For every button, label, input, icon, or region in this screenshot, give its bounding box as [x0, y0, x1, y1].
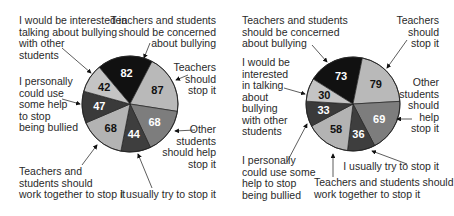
label-together: Teachers and students should work togeth…	[19, 166, 125, 201]
slice-value-label: 30	[318, 89, 330, 101]
label-together: Teachers and students should work togeth…	[314, 177, 454, 200]
label-usually: I usually try to stop it	[343, 161, 439, 173]
label-help: I personally could use some help to stop…	[19, 76, 78, 134]
label-usually: I usually try to stop it	[120, 189, 216, 201]
slice-value-label: 36	[352, 128, 364, 140]
label-interested: I would be interested in talking about b…	[242, 57, 290, 138]
label-others: Other students should help stop it	[399, 77, 439, 135]
label-teachers: Teachers should stop it	[396, 15, 439, 50]
label-others: Other students should help stop it	[162, 124, 216, 170]
slice-value-label: 68	[148, 116, 160, 128]
slice-value-label: 73	[335, 70, 347, 82]
slice-value-label: 33	[317, 104, 329, 116]
label-concerned: Teachers and students should be concerne…	[242, 15, 348, 50]
left-pie-panel: 82876844684742 I would be interested in …	[0, 0, 227, 216]
right-pie-panel: 73796936583330 Teachers and students sho…	[227, 0, 454, 216]
slice-value-label: 44	[128, 128, 141, 140]
slice-value-label: 82	[121, 67, 133, 79]
slice-value-label: 47	[93, 100, 105, 112]
slice-value-label: 87	[151, 84, 163, 96]
slice-value-label: 42	[98, 81, 110, 93]
label-concerned: Teachers and students should be concerne…	[110, 15, 216, 50]
label-help: I personally could use some help to stop…	[242, 155, 316, 201]
slice-value-label: 58	[330, 123, 342, 135]
label-teachers: Teachers should stop it	[173, 62, 216, 97]
slice-value-label: 79	[370, 78, 382, 90]
slice-value-label: 69	[373, 113, 385, 125]
slice-value-label: 68	[105, 122, 117, 134]
